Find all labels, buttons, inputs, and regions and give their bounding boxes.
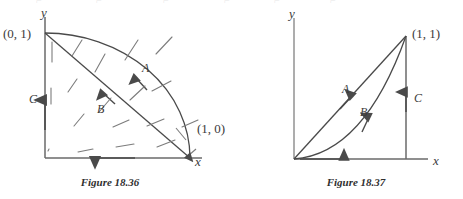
figure-caption: Figure 18.36 (80, 176, 140, 188)
path-b-arrowhead (103, 93, 115, 104)
path-a-label: A (341, 82, 350, 96)
path-b-line (45, 33, 190, 158)
path-a-arrowhead (136, 78, 147, 90)
point-label-0-1: (0, 1) (3, 26, 31, 41)
path-a-arrowhead (340, 96, 352, 109)
point-label-1-1: (1, 1) (412, 26, 440, 41)
x-axis-label: x (432, 153, 439, 168)
path-c-label: C (414, 91, 423, 105)
figure-18-36-canvas: y x (0, 1) (1, 0) A B C Figure 18.36 (0, 0, 232, 199)
figure-18-37-canvas: y x (1, 1) A B C Figure 18.37 (232, 0, 463, 199)
path-b-label: B (360, 105, 368, 119)
figure-18-36: y x (0, 1) (1, 0) A B C Figure 18.36 (0, 0, 232, 199)
path-c-label: C (29, 92, 38, 106)
y-axis-label: y (287, 6, 295, 21)
x-axis-label: x (194, 154, 201, 169)
path-a-label: A (141, 61, 150, 75)
callout-leader-line (176, 128, 186, 140)
y-axis-label: y (39, 5, 47, 20)
figure-caption: Figure 18.37 (326, 176, 386, 188)
path-b-label: B (97, 102, 105, 116)
figure-pair-container: ⌐ ⌐ ⌐ ⌐ ⌐ ⌐ (0, 0, 463, 199)
figure-18-37: y x (1, 1) A B C Figure 18.37 (232, 0, 463, 199)
point-label-1-0: (1, 0) (197, 121, 225, 136)
